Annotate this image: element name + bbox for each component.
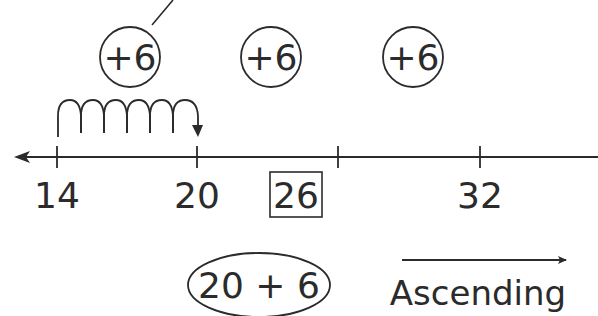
step-circle-2: +6 (241, 27, 301, 87)
direction-label: Ascending (390, 273, 566, 313)
step-circle-label: +6 (244, 37, 297, 78)
step-circle-1: +6 (100, 27, 160, 87)
expression-oval: 20 + 6 (188, 253, 330, 316)
number-line (14, 146, 598, 168)
jump-arcs (58, 100, 203, 137)
expression-text: 20 + 6 (198, 265, 320, 306)
tick-label: 20 (174, 175, 220, 216)
diagram-canvas: +6 +6 +6 14 (0, 0, 598, 316)
number-line-diagram: +6 +6 +6 14 (0, 0, 598, 316)
leader-line (152, 0, 173, 25)
step-circle-label: +6 (386, 37, 439, 78)
step-circle-3: +6 (383, 27, 443, 87)
tick-label: 14 (34, 175, 80, 216)
tick-label-boxed: 26 (273, 175, 319, 216)
jump-arrowhead-icon (192, 125, 203, 137)
step-circle-label: +6 (103, 37, 156, 78)
tick-label: 32 (457, 175, 503, 216)
